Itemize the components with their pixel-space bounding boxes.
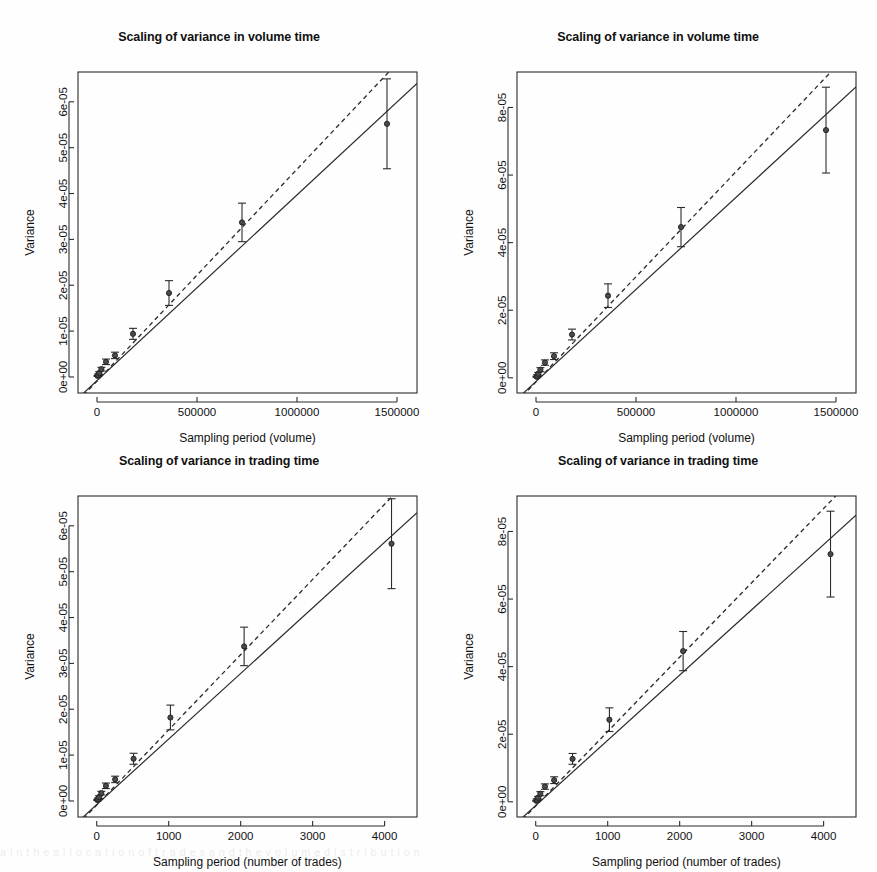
plot-content <box>517 46 856 402</box>
y-tick-label: 2e-05 <box>496 720 508 749</box>
y-tick-label: 0e+00 <box>57 361 69 393</box>
data-point <box>389 541 394 546</box>
y-axis-title: Variance <box>462 209 476 256</box>
y-axis-title: Variance <box>23 209 37 256</box>
plot-content <box>517 475 856 825</box>
plot-content <box>78 42 417 401</box>
y-tick-label: 8e-05 <box>496 517 508 546</box>
data-point <box>538 367 543 372</box>
fitted-line <box>517 87 856 399</box>
y-tick-label: 2e-05 <box>57 695 69 724</box>
y-tick-label: 3e-05 <box>57 649 69 678</box>
data-point <box>607 717 612 722</box>
x-tick-label: 0 <box>533 830 539 842</box>
plot-box <box>78 72 417 393</box>
data-point <box>166 290 171 295</box>
data-point <box>542 360 547 365</box>
x-tick-label: 3000 <box>300 830 326 842</box>
fitted-line <box>78 83 417 398</box>
panel-plot-svg: 0e+002e-054e-056e-058e-05010002000300040… <box>439 432 877 862</box>
y-tick-label: 5e-05 <box>57 133 69 162</box>
data-point <box>605 293 610 298</box>
y-tick-label: 0e+00 <box>496 362 508 394</box>
x-tick-label: 1500000 <box>375 406 420 418</box>
reference-line <box>78 470 417 824</box>
x-tick-label: 4000 <box>372 830 398 842</box>
data-point <box>570 756 575 761</box>
plot-box <box>517 72 856 393</box>
data-point <box>239 220 244 225</box>
y-tick-label: 4e-05 <box>57 179 69 208</box>
y-tick-label: 6e-05 <box>57 511 69 540</box>
panel-plot-svg: 0e+002e-054e-056e-058e-05050000010000001… <box>439 8 877 438</box>
y-tick-label: 4e-05 <box>496 652 508 681</box>
y-tick-label: 2e-05 <box>57 271 69 300</box>
x-tick-label: 1000 <box>595 830 621 842</box>
data-point <box>569 332 574 337</box>
data-point <box>384 121 389 126</box>
x-tick-label: 2000 <box>667 830 693 842</box>
data-point <box>130 331 135 336</box>
reference-line <box>517 46 856 402</box>
y-tick-label: 1e-05 <box>57 316 69 345</box>
x-tick-label: 1500000 <box>814 406 859 418</box>
data-point <box>168 715 173 720</box>
y-axis-title: Variance <box>23 633 37 680</box>
data-point <box>551 354 556 359</box>
data-point <box>131 756 136 761</box>
plot-box <box>78 496 417 817</box>
chart-panel-top-left: Scaling of variance in volume time 0e+00… <box>0 8 438 438</box>
data-point <box>112 353 117 358</box>
y-tick-label: 1e-05 <box>57 740 69 769</box>
y-tick-label: 4e-05 <box>57 603 69 632</box>
chart-panel-bottom-left: Scaling of variance in trading time 0e+0… <box>0 432 438 862</box>
x-tick-label: 3000 <box>739 830 765 842</box>
panel-plot-svg: 0e+001e-052e-053e-054e-055e-056e-0505000… <box>0 8 438 438</box>
reference-line <box>78 42 417 401</box>
fitted-line <box>517 515 856 822</box>
data-point <box>242 644 247 649</box>
chart-panel-bottom-right: Scaling of variance in trading time 0e+0… <box>439 432 877 862</box>
panel-plot-svg: 0e+001e-052e-053e-054e-055e-056e-0501000… <box>0 432 438 862</box>
fitted-line <box>78 513 417 822</box>
plot-content <box>78 470 417 824</box>
data-point <box>828 552 833 557</box>
data-point <box>99 791 104 796</box>
x-tick-label: 0 <box>533 406 539 418</box>
y-tick-label: 3e-05 <box>57 225 69 254</box>
data-point <box>542 784 547 789</box>
y-tick-label: 6e-05 <box>496 584 508 613</box>
x-tick-label: 500000 <box>178 406 216 418</box>
y-tick-label: 0e+00 <box>57 785 69 817</box>
y-tick-label: 0e+00 <box>496 786 508 818</box>
data-point <box>99 367 104 372</box>
data-point <box>538 791 543 796</box>
plot-box <box>517 496 856 817</box>
y-tick-label: 6e-05 <box>57 87 69 116</box>
y-tick-label: 6e-05 <box>496 160 508 189</box>
y-tick-label: 5e-05 <box>57 557 69 586</box>
x-tick-label: 1000 <box>156 830 182 842</box>
data-point <box>823 128 828 133</box>
x-axis-title: Sampling period (number of trades) <box>592 855 781 869</box>
x-tick-label: 4000 <box>811 830 837 842</box>
y-axis-title: Variance <box>462 633 476 680</box>
y-tick-label: 2e-05 <box>496 296 508 325</box>
x-tick-label: 0 <box>94 406 100 418</box>
data-point <box>681 648 686 653</box>
x-tick-label: 2000 <box>228 830 254 842</box>
x-tick-label: 1000000 <box>714 406 759 418</box>
data-point <box>103 359 108 364</box>
x-tick-label: 500000 <box>617 406 655 418</box>
y-tick-label: 8e-05 <box>496 93 508 122</box>
data-point <box>678 224 683 229</box>
figure-canvas: Scaling of variance in volume time 0e+00… <box>0 0 877 872</box>
data-point <box>552 778 557 783</box>
x-tick-label: 1000000 <box>275 406 320 418</box>
data-point <box>103 783 108 788</box>
y-tick-label: 4e-05 <box>496 228 508 257</box>
x-tick-label: 0 <box>94 830 100 842</box>
x-axis-title: Sampling period (number of trades) <box>153 855 342 869</box>
chart-panel-top-right: Scaling of variance in volume time 0e+00… <box>439 8 877 438</box>
data-point <box>113 777 118 782</box>
